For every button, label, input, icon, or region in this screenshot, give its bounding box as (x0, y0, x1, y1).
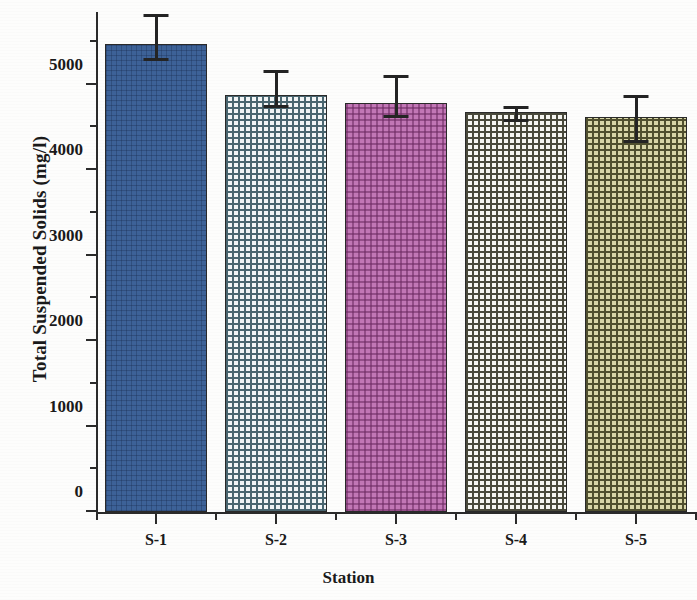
error-cap-top-s3 (384, 75, 409, 78)
x-tick-s5 (635, 514, 637, 524)
x-tick-label-s4: S-4 (505, 531, 527, 549)
bar-s3 (345, 103, 447, 512)
error-cap-top-s5 (624, 95, 649, 98)
y-tick-5000 (86, 83, 96, 85)
bar-s2 (225, 95, 327, 512)
error-cap-bottom-s5 (624, 140, 649, 143)
y-tick-3000 (86, 254, 96, 256)
chart-figure: Total Suspended Solids (mg/l) Station 0 … (0, 0, 697, 600)
error-bar-s1 (155, 14, 158, 62)
y-minor-tick-3500 (90, 211, 96, 213)
x-tick-s2 (275, 514, 277, 524)
x-tick-label-s5: S-5 (625, 531, 647, 549)
x-minor-tick-0 (96, 514, 98, 520)
y-minor-tick-500 (90, 467, 96, 469)
error-bar-s4 (515, 106, 518, 122)
y-tick-label-2000: 2000 (49, 311, 83, 331)
y-axis-title: Total Suspended Solids (mg/l) (29, 39, 51, 479)
x-tick-label-s3: S-3 (385, 531, 407, 549)
y-tick-0 (86, 510, 96, 512)
x-tick-label-s1: S-1 (145, 531, 167, 549)
error-cap-top-s4 (504, 106, 529, 109)
y-minor-tick-4500 (90, 125, 96, 127)
y-tick-label-0: 0 (75, 482, 84, 502)
error-cap-bottom-s4 (504, 119, 529, 122)
bar-s5 (585, 117, 687, 512)
error-cap-top-s1 (144, 14, 169, 17)
y-tick-label-4000: 4000 (49, 140, 83, 160)
error-cap-bottom-s2 (264, 105, 289, 108)
error-bar-s5 (635, 95, 638, 143)
y-minor-tick-1500 (90, 382, 96, 384)
x-axis-title: Station (0, 568, 697, 588)
plot-area: 0 1000 2000 3000 4000 5000 S-1 S-2 S-3 (96, 12, 697, 514)
y-tick-1000 (86, 425, 96, 427)
error-bar-s3 (395, 75, 398, 118)
x-minor-tick-2 (335, 514, 337, 520)
y-tick-label-1000: 1000 (49, 397, 83, 417)
x-tick-s1 (155, 514, 157, 524)
bar-s1 (105, 44, 207, 513)
error-cap-bottom-s1 (144, 58, 169, 61)
y-tick-2000 (86, 339, 96, 341)
y-axis-line (96, 12, 98, 514)
y-tick-label-3000: 3000 (49, 226, 83, 246)
x-minor-tick-1 (215, 514, 217, 520)
y-minor-tick-2500 (90, 296, 96, 298)
x-minor-tick-4 (575, 514, 577, 520)
error-cap-top-s2 (264, 70, 289, 73)
y-minor-tick-5500 (90, 40, 96, 42)
y-tick-label-5000: 5000 (49, 55, 83, 75)
x-tick-label-s2: S-2 (265, 531, 287, 549)
y-tick-4000 (86, 168, 96, 170)
x-minor-tick-3 (455, 514, 457, 520)
x-tick-s3 (395, 514, 397, 524)
x-tick-s4 (515, 514, 517, 524)
error-bar-s2 (275, 70, 278, 108)
bar-s4 (465, 112, 567, 512)
error-cap-bottom-s3 (384, 115, 409, 118)
